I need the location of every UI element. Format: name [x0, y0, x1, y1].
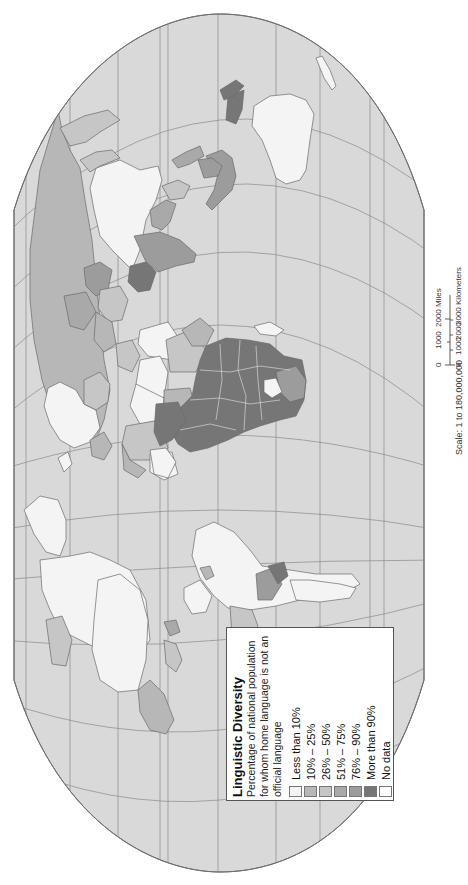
swatch-no-data	[379, 786, 392, 797]
legend-subtitle: Percentage of national population for wh…	[245, 633, 284, 797]
swatch-less-than-10	[289, 786, 302, 797]
swatch-more-than-90	[364, 786, 377, 797]
legend-label: 76% – 90%	[350, 724, 362, 780]
legend-label: 26% – 50%	[320, 724, 332, 780]
legend-item-more-than-90: More than 90%	[363, 633, 378, 797]
legend-label: 51% – 75%	[335, 724, 347, 780]
legend-label: 10% – 25%	[305, 724, 317, 780]
legend-item-10-25: 10% – 25%	[303, 633, 318, 797]
legend-label: More than 90%	[365, 705, 377, 780]
scale-miles-2000: 2000 Miles	[434, 288, 443, 327]
swatch-51-75	[334, 786, 347, 797]
scale-miles-0: 0	[434, 363, 443, 367]
legend-label: Less than 10%	[290, 707, 302, 780]
legend-title: Linguistic Diversity	[231, 633, 245, 797]
scale-text: Scale: 1 to 180,000,000	[454, 360, 464, 455]
swatch-26-50	[319, 786, 332, 797]
legend-content: Linguistic Diversity Percentage of natio…	[227, 628, 395, 802]
map-scale: Scale: 1 to 180,000,000 0 1000 2000 Mile…	[430, 205, 468, 455]
scale-km-0: 0	[454, 363, 463, 367]
legend-item-76-90: 76% – 90%	[348, 633, 363, 797]
legend: Linguistic Diversity Percentage of natio…	[226, 627, 394, 801]
legend-item-26-50: 26% – 50%	[318, 633, 333, 797]
legend-item-less-than-10: Less than 10%	[288, 633, 303, 797]
legend-label: No data	[380, 741, 392, 780]
swatch-76-90	[349, 786, 362, 797]
legend-item-no-data: No data	[378, 633, 393, 797]
swatch-10-25	[304, 786, 317, 797]
region-usa	[92, 574, 148, 692]
scale-miles-1000: 1000	[434, 331, 443, 349]
legend-item-51-75: 51% – 75%	[333, 633, 348, 797]
scale-km-3000: 3000 Kilometers	[454, 267, 463, 325]
